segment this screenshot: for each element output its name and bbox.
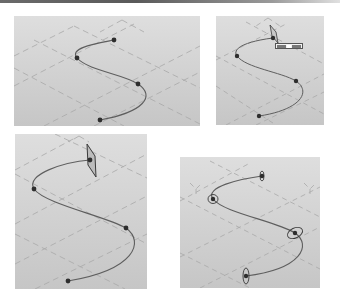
- control-point[interactable]: [294, 79, 298, 83]
- control-point[interactable]: [88, 158, 93, 163]
- control-points[interactable]: [32, 158, 129, 284]
- control-point[interactable]: [136, 82, 141, 87]
- viewport-curve-points[interactable]: [14, 16, 200, 126]
- top-edge-strip: [0, 0, 340, 3]
- coordinate-label-box[interactable]: 草图1 草图1: [275, 43, 303, 49]
- control-point[interactable]: [257, 114, 261, 118]
- scene-4: [180, 157, 320, 288]
- control-point[interactable]: [260, 174, 264, 178]
- control-point[interactable]: [211, 197, 215, 201]
- control-points[interactable]: [211, 174, 297, 278]
- viewport-curve-ellipse-handles[interactable]: [180, 157, 320, 288]
- control-point[interactable]: [244, 274, 248, 278]
- scene-1: [14, 16, 200, 126]
- label-field-1[interactable]: 草图1: [277, 45, 286, 48]
- tangent-handles[interactable]: [208, 171, 304, 284]
- label-separator: [287, 45, 291, 48]
- viewport-curve-plane[interactable]: [15, 134, 147, 289]
- isometric-grid: [14, 20, 200, 126]
- label-field-2[interactable]: 草图1: [292, 45, 301, 48]
- control-point[interactable]: [75, 56, 80, 61]
- scene-2: [216, 16, 324, 125]
- spline-curve[interactable]: [75, 40, 146, 120]
- control-point[interactable]: [66, 279, 71, 284]
- control-point[interactable]: [124, 226, 129, 231]
- isometric-grid: [180, 161, 320, 288]
- control-point[interactable]: [235, 54, 239, 58]
- control-point[interactable]: [293, 231, 297, 235]
- spline-curve[interactable]: [33, 160, 135, 281]
- control-point[interactable]: [32, 187, 37, 192]
- control-point[interactable]: [271, 36, 275, 40]
- viewport-curve-with-label[interactable]: 草图1 草图1: [216, 16, 324, 125]
- plane-handle-icon[interactable]: [270, 25, 278, 43]
- scene-3: [15, 134, 147, 289]
- spline-curve[interactable]: [236, 38, 303, 116]
- spline-curve[interactable]: [212, 176, 303, 276]
- control-point[interactable]: [98, 118, 103, 123]
- control-point[interactable]: [112, 38, 117, 43]
